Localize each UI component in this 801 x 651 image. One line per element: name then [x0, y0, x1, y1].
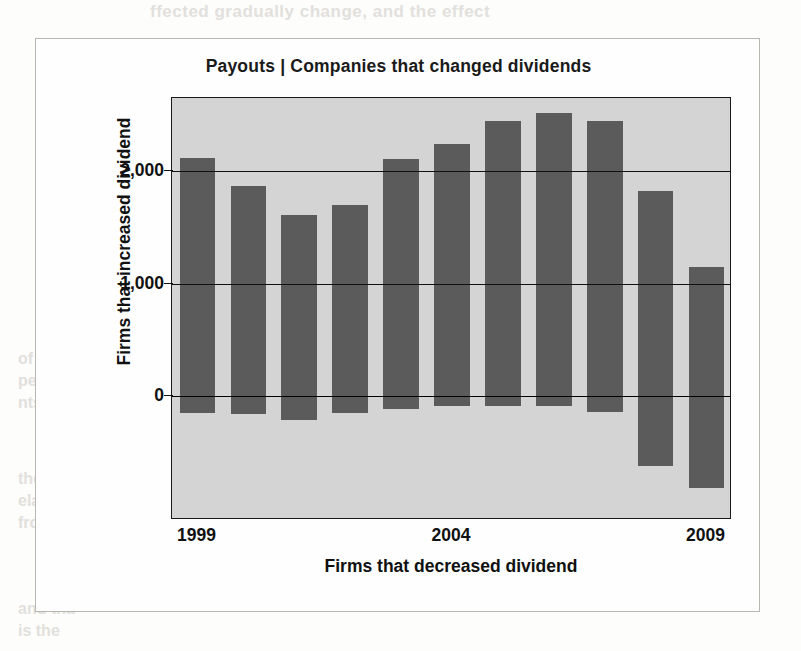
bar-increased-2009 [689, 267, 725, 396]
y-axis-tick-label: 0 [154, 385, 164, 406]
page-bleed-line-10: is the [18, 622, 60, 640]
bar-increased-2006 [536, 113, 572, 397]
bar-increased-2004 [434, 144, 470, 396]
x-axis-tick-label: 2009 [686, 525, 725, 546]
x-axis-tick-label: 1999 [177, 525, 216, 546]
chart-figure: Payouts | Companies that changed dividen… [35, 38, 760, 612]
bar-decreased-2008 [638, 396, 674, 466]
x-axis-label: Firms that decreased dividend [171, 556, 731, 577]
gridline [172, 284, 730, 285]
bar-decreased-2003 [383, 396, 419, 409]
gridline [172, 171, 730, 172]
bar-decreased-2001 [281, 396, 317, 420]
bar-increased-2002 [332, 205, 368, 396]
bar-decreased-1999 [180, 396, 216, 413]
bar-series [172, 98, 730, 518]
bar-decreased-2006 [536, 396, 572, 406]
y-axis-tick-mark [164, 283, 173, 284]
bar-decreased-2005 [485, 396, 521, 406]
bar-increased-2008 [638, 191, 674, 396]
x-axis-tick-label: 2004 [432, 525, 471, 546]
bar-decreased-2002 [332, 396, 368, 413]
bar-increased-2007 [587, 121, 623, 397]
page-bleed-line-1: ffected gradually change, and the effect [150, 2, 490, 22]
bar-decreased-2009 [689, 396, 725, 488]
bar-increased-2005 [485, 121, 521, 397]
y-axis-tick-mark [164, 170, 173, 171]
bar-increased-2001 [281, 215, 317, 396]
plot-area [171, 97, 731, 519]
bar-decreased-2007 [587, 396, 623, 412]
bar-increased-1999 [180, 158, 216, 397]
bar-increased-2003 [383, 159, 419, 396]
zero-axis-line [172, 396, 730, 397]
bar-decreased-2004 [434, 396, 470, 406]
y-axis-tick-mark [164, 395, 173, 396]
y-axis-tick-label: 1,000 [120, 272, 164, 293]
y-axis-tick-label: 2,000 [120, 160, 164, 181]
y-axis-tick-labels: 01,0002,000 [66, 97, 164, 519]
bar-increased-2000 [231, 186, 267, 396]
bar-decreased-2000 [231, 396, 267, 413]
